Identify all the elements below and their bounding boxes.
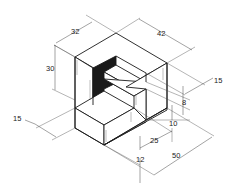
dim-label-15-right: 15: [214, 76, 222, 85]
dim-label-10: 10: [169, 119, 177, 128]
dim-label-15-left: 15: [13, 114, 21, 123]
dim-label-32: 32: [71, 27, 79, 36]
dim-label-25: 25: [150, 136, 158, 145]
drawing-canvas: 32 42 30 15 8 10 15 25 12 50: [0, 0, 236, 195]
dim-label-8: 8: [182, 98, 186, 107]
dim-label-42: 42: [157, 29, 165, 38]
isometric-block-drawing: 32 42 30 15 8 10 15 25 12 50: [0, 0, 236, 195]
dim-label-30: 30: [46, 64, 54, 73]
block-body: [75, 33, 167, 145]
dim-label-50: 50: [172, 151, 180, 160]
dim-label-12: 12: [136, 155, 144, 164]
